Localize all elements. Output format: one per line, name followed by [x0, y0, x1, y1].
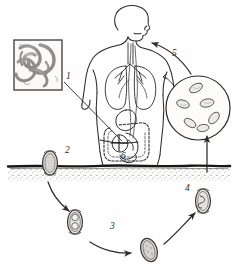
- diagram-canvas: [0, 0, 237, 277]
- egg-stage-3: [68, 210, 83, 235]
- life-cycle-diagram: 1 2 3 4 5 6: [0, 0, 237, 277]
- label-5: 5: [172, 49, 177, 59]
- egg-stage-2: [43, 151, 58, 176]
- label-6: 6: [121, 152, 126, 162]
- label-1: 1: [66, 72, 71, 82]
- human-body-outline: [82, 6, 178, 166]
- arrow-egg2-to-egg3: [48, 182, 69, 211]
- soil-ground: [8, 166, 230, 181]
- adult-worms-inset: [14, 40, 62, 90]
- egg-stage-4: [196, 189, 211, 214]
- egg-stage-3b: [138, 236, 161, 264]
- arrow-egg3-to-egg3b: [90, 242, 131, 253]
- intestine-group: [104, 110, 149, 163]
- arrow-egg3b-to-egg4: [164, 213, 195, 244]
- label-2: 2: [65, 146, 70, 156]
- label-3: 3: [110, 222, 115, 232]
- label-4: 4: [185, 184, 190, 194]
- pointer-inset-to-intestine: [64, 82, 122, 141]
